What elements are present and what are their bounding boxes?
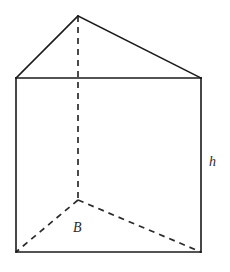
base-label: B bbox=[73, 221, 82, 235]
prism-figure: h B bbox=[0, 0, 230, 272]
front-rectangular-face bbox=[16, 78, 201, 252]
prism-drawing bbox=[0, 0, 230, 272]
height-label: h bbox=[209, 155, 216, 169]
top-triangular-face bbox=[16, 16, 201, 78]
